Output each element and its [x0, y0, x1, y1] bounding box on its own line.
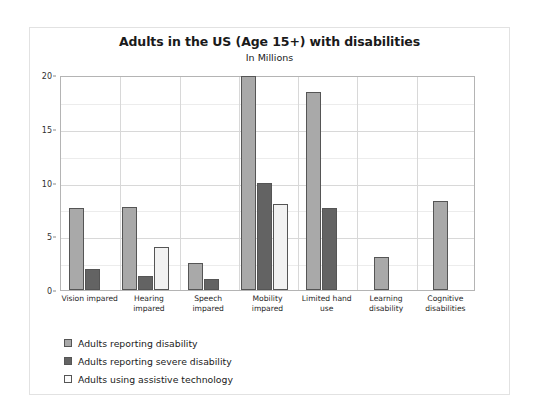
- legend-swatch-icon: [64, 375, 72, 383]
- y-tick-label: 10: [42, 179, 52, 188]
- group-separator: [357, 77, 358, 290]
- x-tick-label: Learning disability: [356, 294, 415, 314]
- chart-title: Adults in the US (Age 15+) with disabili…: [30, 34, 509, 49]
- bar: [154, 247, 169, 290]
- bar: [433, 201, 448, 290]
- y-tick-label: 15: [42, 125, 52, 134]
- legend-item-label: Adults reporting severe disability: [78, 356, 232, 367]
- plot-area: [60, 76, 475, 291]
- x-tick-label: Vision impared: [60, 294, 119, 304]
- legend-item-label: Adults using assistive technology: [78, 374, 233, 385]
- chart-legend: Adults reporting disabilityAdults report…: [64, 334, 233, 388]
- y-tick-mark: [53, 237, 56, 238]
- group-separator: [417, 77, 418, 290]
- x-tick-label: Limited hand use: [297, 294, 356, 314]
- bar: [122, 207, 137, 290]
- bar: [69, 208, 84, 290]
- group-separator: [120, 77, 121, 290]
- legend-swatch-icon: [64, 339, 72, 347]
- y-tick-mark: [53, 76, 56, 77]
- legend-swatch-icon: [64, 357, 72, 365]
- bar: [306, 92, 321, 290]
- x-tick-label: Speech impared: [179, 294, 238, 314]
- x-tick-label: Cognitive disabilities: [416, 294, 475, 314]
- title-block: Adults in the US (Age 15+) with disabili…: [30, 34, 509, 65]
- bar: [204, 279, 219, 290]
- y-axis: 05101520: [34, 76, 56, 291]
- chart-subtitle: In Millions: [30, 51, 509, 65]
- x-tick-label: Hearing impared: [119, 294, 178, 314]
- x-axis-labels: Vision imparedHearing imparedSpeech impa…: [60, 294, 475, 328]
- bar: [374, 257, 389, 290]
- legend-item-label: Adults reporting disability: [78, 338, 198, 349]
- x-tick-label: Mobility impared: [238, 294, 297, 314]
- gridline: [61, 104, 474, 105]
- group-separator: [180, 77, 181, 290]
- plot-wrapper: 05101520: [60, 76, 475, 291]
- bar: [85, 269, 100, 291]
- gridline: [61, 158, 474, 159]
- legend-item[interactable]: Adults reporting severe disability: [64, 352, 233, 370]
- bar: [322, 208, 337, 290]
- legend-item[interactable]: Adults using assistive technology: [64, 370, 233, 388]
- group-separator: [239, 77, 240, 290]
- y-tick-mark: [53, 183, 56, 184]
- bar: [257, 183, 272, 291]
- y-tick-mark: [53, 129, 56, 130]
- y-tick-label: 0: [47, 287, 52, 296]
- bar: [188, 263, 203, 290]
- bar: [138, 276, 153, 290]
- gridline: [61, 131, 474, 132]
- y-tick-mark: [53, 291, 56, 292]
- bar: [241, 76, 256, 290]
- y-tick-label: 5: [47, 233, 52, 242]
- chart-frame: Adults in the US (Age 15+) with disabili…: [29, 27, 510, 395]
- bar: [273, 204, 288, 290]
- group-separator: [298, 77, 299, 290]
- legend-item[interactable]: Adults reporting disability: [64, 334, 233, 352]
- y-tick-label: 20: [42, 72, 52, 81]
